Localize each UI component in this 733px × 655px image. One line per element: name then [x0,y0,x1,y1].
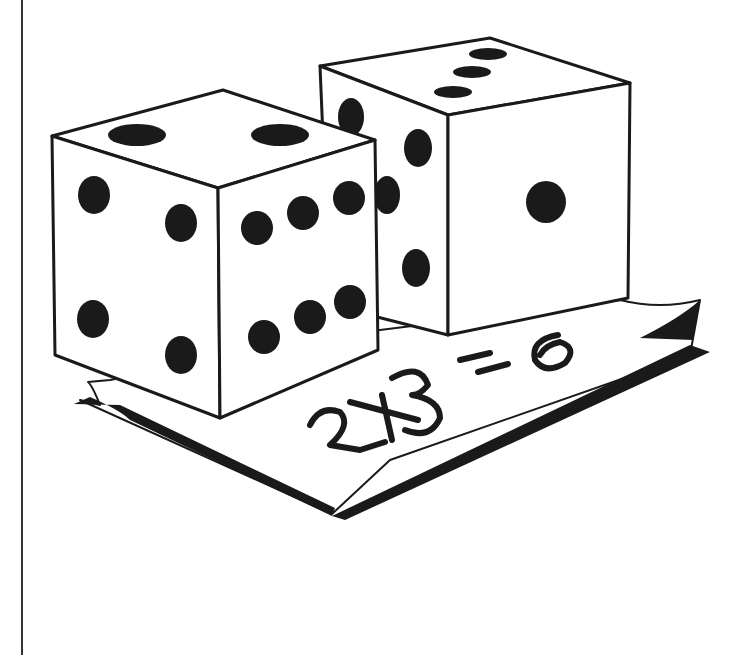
left-margin-rule [21,0,23,655]
front-die [52,90,378,418]
illustration-canvas: 2X3=6 [0,0,733,655]
dice-illustration [0,0,733,655]
